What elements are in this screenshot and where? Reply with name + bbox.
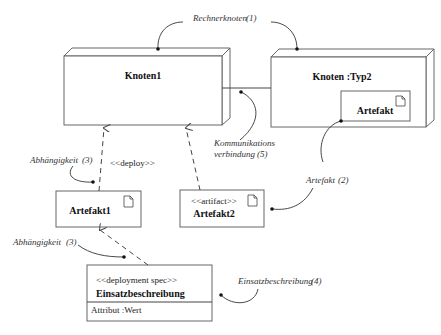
artefakt2-stereotype: <<artifact>> <box>191 196 237 206</box>
annotation-rechnerknoten: Rechnerknoten <box>192 13 247 23</box>
annotation-leader-kommunikation <box>240 92 256 140</box>
artefakt1-label: Artefakt1 <box>69 205 111 216</box>
annotation-leader-rechnerknoten-1 <box>158 22 183 49</box>
annotation-abhaengigkeit-top: Abhängigkeit <box>29 155 78 165</box>
artifact-in-node[interactable]: Artefakt <box>341 91 410 121</box>
node-knoten1-label: Knoten1 <box>125 70 162 81</box>
document-icon <box>124 196 133 207</box>
annotation-einsatzbeschreibung: Einsatzbeschreibung <box>237 276 313 286</box>
artefakt2-label: Artefakt2 <box>193 208 235 219</box>
annotation-artefakt-num: (2) <box>338 175 349 185</box>
annotation-leader-artefakt2 <box>272 188 313 209</box>
dependency-spec-to-artefakt1[interactable] <box>100 230 148 265</box>
annotation-abhaengigkeit-bottom: Abhängigkeit <box>12 237 61 247</box>
annotation-einsatzbeschreibung-num: (4) <box>311 276 322 286</box>
annotation-leader-rechnerknoten-2 <box>271 22 297 49</box>
document-icon <box>248 195 257 206</box>
annotation-leader-einsatzbeschreibung <box>221 289 258 303</box>
deployment-spec-attribute: Attribut :Wert <box>91 305 142 315</box>
artifact-in-node-label: Artefakt <box>357 105 394 116</box>
deploy-dependency-artefakt1[interactable] <box>99 128 104 191</box>
deployment-spec-stereotype: <<deployment spec>> <box>96 275 177 285</box>
annotation-artefakt: Artefakt <box>305 175 335 185</box>
annotation-kommunikation-line2: verbindung <box>214 149 255 159</box>
annotation-leader-abhaengigkeit-bottom <box>78 245 124 257</box>
deploy-stereotype-label: <<deploy>> <box>110 158 155 168</box>
artifact-artefakt1[interactable]: Artefakt1 <box>56 191 141 227</box>
document-icon <box>396 96 405 106</box>
annotation-leader-abhaengigkeit-top <box>70 166 93 182</box>
artifact-artefakt2[interactable]: <<artifact>> Artefakt2 <box>180 190 264 227</box>
node-knoten1[interactable]: Knoten1 <box>64 48 230 125</box>
annotation-rechnerknoten-num: (1) <box>246 13 257 23</box>
deployment-spec[interactable]: <<deployment spec>> Einsatzbeschreibung … <box>87 265 212 321</box>
annotation-kommunikation-num: (5) <box>257 149 268 159</box>
annotation-abhaengigkeit-bottom-num: (3) <box>66 237 77 247</box>
annotation-abhaengigkeit-top-num: (3) <box>82 155 93 165</box>
deployment-diagram: Knoten1 Knoten :Typ2 Artefakt Artefakt1 … <box>0 0 441 335</box>
deploy-dependency-artefakt2[interactable] <box>186 128 200 190</box>
deployment-spec-label: Einsatzbeschreibung <box>96 288 185 299</box>
node-knoten-typ2-label: Knoten :Typ2 <box>313 71 372 82</box>
annotation-kommunikation-line1: Kommunikations <box>213 138 275 148</box>
